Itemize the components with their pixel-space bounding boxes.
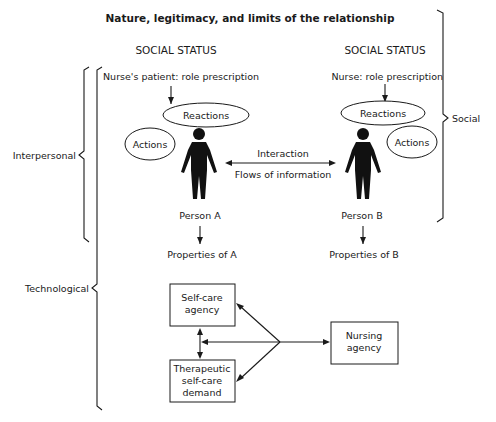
vertical-arrow-down-head bbox=[197, 352, 203, 359]
social-brace bbox=[437, 10, 448, 222]
therapeutic-demand-arrow-head bbox=[236, 374, 244, 382]
hub-to-therapeutic-demand bbox=[241, 342, 280, 378]
hub-to-self-care-agency bbox=[241, 307, 280, 342]
technological-label: Technological bbox=[24, 283, 89, 294]
interpersonal-brace bbox=[79, 67, 89, 242]
therapeutic-demand-line2: self-care bbox=[182, 375, 222, 386]
midline-arrow-head bbox=[201, 339, 208, 345]
nursing-agency-line2: agency bbox=[347, 342, 382, 353]
social-label: Social bbox=[452, 113, 480, 124]
flows-of-information-label: Flows of information bbox=[235, 169, 332, 180]
person-b-icon bbox=[345, 128, 381, 199]
interaction-arrow-right-head bbox=[329, 160, 336, 166]
interaction-label: Interaction bbox=[257, 148, 309, 159]
interpersonal-label: Interpersonal bbox=[13, 150, 76, 161]
properties-a-label: Properties of A bbox=[167, 249, 237, 260]
self-care-agency-line1: Self-care bbox=[181, 292, 223, 303]
nursing-agency-arrow-head bbox=[323, 339, 330, 345]
person-a-label: Person A bbox=[179, 210, 221, 221]
left-social-status: SOCIAL STATUS bbox=[135, 44, 216, 56]
therapeutic-demand-line1: Therapeutic bbox=[173, 363, 231, 374]
person-a-icon bbox=[181, 128, 217, 199]
right-role-prescription: Nurse: role prescription bbox=[331, 71, 443, 82]
right-social-status: SOCIAL STATUS bbox=[344, 44, 425, 56]
diagram-title: Nature, legitimacy, and limits of the re… bbox=[106, 12, 395, 24]
technological-brace bbox=[92, 67, 102, 410]
left-actions-label: Actions bbox=[133, 139, 168, 150]
right-actions-label: Actions bbox=[395, 137, 430, 148]
left-role-prescription: Nurse's patient: role prescription bbox=[103, 71, 259, 82]
interaction-arrow-left-head bbox=[225, 160, 232, 166]
nursing-agency-line1: Nursing bbox=[346, 330, 383, 341]
right-reactions-label: Reactions bbox=[360, 108, 406, 119]
nursing-systems-diagram: Nature, legitimacy, and limits of the re… bbox=[0, 0, 496, 422]
vertical-arrow-up-head bbox=[197, 328, 203, 335]
person-b-label: Person B bbox=[341, 210, 382, 221]
left-reactions-label: Reactions bbox=[183, 110, 229, 121]
therapeutic-demand-line3: demand bbox=[182, 387, 221, 398]
properties-b-label: Properties of B bbox=[329, 249, 399, 260]
self-care-agency-line2: agency bbox=[185, 304, 220, 315]
